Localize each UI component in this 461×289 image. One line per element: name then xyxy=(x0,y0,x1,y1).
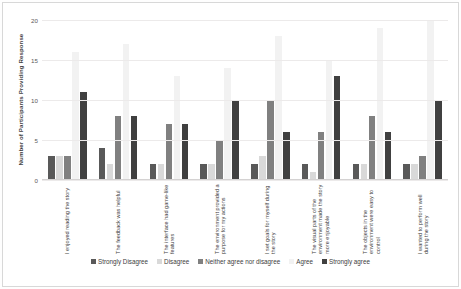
bar xyxy=(403,164,410,180)
bar xyxy=(251,164,258,180)
legend-swatch-icon xyxy=(91,259,96,264)
bar xyxy=(353,164,360,180)
legend-item[interactable]: Strongly agree xyxy=(322,258,370,265)
bar xyxy=(115,116,122,180)
legend-item[interactable]: Disagree xyxy=(157,258,189,265)
legend-item[interactable]: Neither agree nor disagree xyxy=(198,258,280,265)
legend-label: Strongly agree xyxy=(329,258,370,265)
x-axis-label-cell: The environment provided a purpose for m… xyxy=(194,182,245,256)
bar-chart: Number of Participants Providing Respons… xyxy=(0,0,461,289)
bar xyxy=(56,156,63,180)
bar xyxy=(302,164,309,180)
bar xyxy=(174,76,181,180)
x-axis-label-cell: I enjoyed reading the story xyxy=(42,182,93,256)
gridline xyxy=(42,100,448,101)
legend-label: Disagree xyxy=(164,258,189,265)
bar xyxy=(369,116,376,180)
bar xyxy=(107,164,114,180)
chart-legend: Strongly DisagreeDisagreeNeither agree n… xyxy=(0,258,461,265)
x-axis-label-cell: I set goals for myself during the story xyxy=(245,182,296,256)
y-axis-tick-label: 0 xyxy=(35,177,38,184)
bar xyxy=(419,156,426,180)
bar xyxy=(208,164,215,180)
bar xyxy=(334,76,341,180)
bar xyxy=(150,164,157,180)
x-axis-label: I set goals for myself during the story xyxy=(264,182,277,254)
bar xyxy=(275,36,282,180)
legend-label: Neither agree nor disagree xyxy=(205,258,280,265)
x-axis-label: I wanted to perform well during the stor… xyxy=(416,182,429,254)
x-axis-labels: I enjoyed reading the storyThe feedback … xyxy=(42,182,448,256)
bar xyxy=(80,92,87,180)
x-axis-label-cell: The objects in the environment were easy… xyxy=(347,182,398,256)
legend-item[interactable]: Strongly Disagree xyxy=(91,258,148,265)
gridline xyxy=(42,60,448,61)
gridline xyxy=(42,180,448,181)
x-axis-label: The objects in the environment were easy… xyxy=(362,182,381,254)
gridline xyxy=(42,140,448,141)
bar xyxy=(224,68,231,180)
bar xyxy=(326,60,333,180)
bar xyxy=(48,156,55,180)
bar xyxy=(123,44,130,180)
y-axis-title: Number of Participants Providing Respons… xyxy=(17,20,24,180)
x-axis-label: The feedback was helpful xyxy=(115,182,121,254)
x-axis-label-cell: I wanted to perform well during the stor… xyxy=(397,182,448,256)
legend-label: Strongly Disagree xyxy=(98,258,148,265)
x-axis-label: The visual parts of the environment made… xyxy=(312,182,331,254)
bar xyxy=(72,52,79,180)
x-axis-label: The interface had game-like features xyxy=(162,182,175,254)
bar xyxy=(259,156,266,180)
bar xyxy=(377,28,384,180)
y-axis-tick-label: 10 xyxy=(31,97,38,104)
bar xyxy=(64,156,71,180)
legend-item[interactable]: Agree xyxy=(289,258,313,265)
x-axis-label-cell: The visual parts of the environment made… xyxy=(296,182,347,256)
y-axis-tick-label: 5 xyxy=(35,137,38,144)
x-axis-label-cell: The interface had game-like features xyxy=(144,182,195,256)
legend-swatch-icon xyxy=(289,259,294,264)
gridline xyxy=(42,20,448,21)
bar xyxy=(216,140,223,180)
bar xyxy=(411,164,418,180)
x-axis-label-cell: The feedback was helpful xyxy=(93,182,144,256)
bar xyxy=(361,164,368,180)
bar xyxy=(131,116,138,180)
y-axis-tick-label: 15 xyxy=(31,57,38,64)
x-axis-label: I enjoyed reading the story xyxy=(64,182,70,254)
legend-label: Agree xyxy=(296,258,313,265)
x-axis-label: The environment provided a purpose for m… xyxy=(213,182,226,254)
y-axis-tick-label: 20 xyxy=(31,17,38,24)
bar xyxy=(99,148,106,180)
bar xyxy=(166,124,173,180)
bar xyxy=(200,164,207,180)
plot-area: 05101520 xyxy=(42,20,448,180)
bar xyxy=(158,164,165,180)
legend-swatch-icon xyxy=(322,259,327,264)
legend-swatch-icon xyxy=(198,259,203,264)
bar xyxy=(182,124,189,180)
legend-swatch-icon xyxy=(157,259,162,264)
